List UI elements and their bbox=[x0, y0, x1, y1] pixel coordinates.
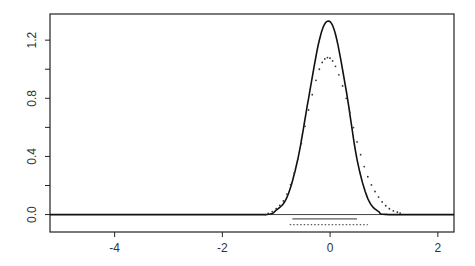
x-tick-label: 0 bbox=[327, 241, 334, 255]
dotted-density-curve bbox=[265, 57, 401, 216]
density-chart: 0.00.40.81.2 -4-202 bbox=[0, 0, 475, 266]
interval-segments bbox=[290, 219, 368, 225]
y-tick-label: 1.2 bbox=[25, 31, 39, 48]
y-tick-label: 0.8 bbox=[25, 90, 39, 107]
plot-frame bbox=[50, 14, 454, 232]
solid-density-curve bbox=[50, 21, 454, 215]
x-axis: -4-202 bbox=[109, 232, 441, 255]
y-tick-label: 0.0 bbox=[25, 206, 39, 223]
x-tick-label: -2 bbox=[217, 241, 228, 255]
x-tick-label: 2 bbox=[434, 241, 441, 255]
y-tick-label: 0.4 bbox=[25, 148, 39, 165]
y-axis: 0.00.40.81.2 bbox=[25, 31, 50, 222]
x-tick-label: -4 bbox=[109, 241, 120, 255]
